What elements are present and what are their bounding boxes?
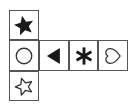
net-cell-bottom xyxy=(9,71,39,101)
heart-outline-icon xyxy=(103,46,123,66)
cube-net-diagram xyxy=(0,0,135,109)
net-cell-middle-3 xyxy=(69,40,98,71)
circle-outline-icon xyxy=(14,46,34,66)
left-triangle-icon xyxy=(43,45,65,67)
net-cell-middle-4 xyxy=(98,40,128,71)
net-cell-top xyxy=(9,10,39,40)
star-outline-icon xyxy=(14,76,34,96)
asterisk-icon xyxy=(73,45,95,67)
net-cell-middle-1 xyxy=(9,40,39,71)
net-cell-middle-2 xyxy=(39,40,69,71)
filled-star-icon xyxy=(13,14,35,36)
